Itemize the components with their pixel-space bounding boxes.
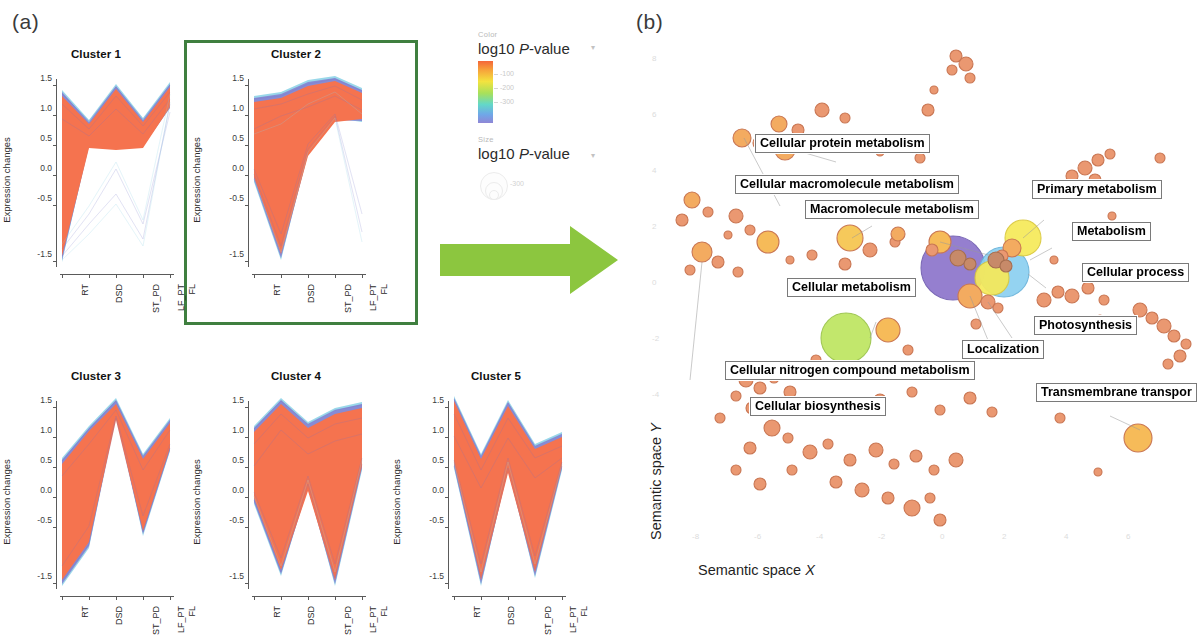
size-legend-tick: -300 xyxy=(510,180,524,187)
size-legend-title-tail: -value xyxy=(529,145,570,162)
color-legend-dropdown-caret[interactable]: ▾ xyxy=(591,43,595,52)
bubble-label-cellular-macromolecule-metabolism[interactable]: Cellular macromolecule metabolism xyxy=(735,175,959,194)
cluster-2-series xyxy=(248,74,368,274)
color-tick-0: -100 xyxy=(500,70,514,77)
cluster-4-ytick-0: 1.5 xyxy=(232,395,244,405)
cluster-3-ytick-5: -1.5 xyxy=(37,571,52,581)
cluster-1-series xyxy=(56,74,176,274)
cluster-4-ytick-5: -1.5 xyxy=(229,571,244,581)
size-legend-dropdown-caret[interactable]: ▾ xyxy=(591,151,595,160)
bubble-label-localization[interactable]: Localization xyxy=(962,340,1044,359)
cluster-5-ytick-1: 1.0 xyxy=(432,425,444,435)
cluster-2-ytick-3: 0.0 xyxy=(232,163,244,173)
cluster-5-ytick-0: 1.5 xyxy=(432,395,444,405)
scatter-x-axis-label-plain: Semantic space xyxy=(698,562,805,578)
cluster-2-xtick-4: FL xyxy=(379,284,389,295)
cluster-plot-5: Cluster 5 Expression changes 1.5 1.0 0.5… xyxy=(396,370,596,640)
cluster-3-xtick-2: ST_PD xyxy=(151,606,161,635)
cluster-1-xtick-1: DSD xyxy=(114,284,124,303)
bubble-label-metabolism[interactable]: Metabolism xyxy=(1072,222,1151,241)
cluster-2-ytick-1: 1.0 xyxy=(232,103,244,113)
cluster-5-ytick-5: -1.5 xyxy=(429,571,444,581)
cluster-1-xtick-3: LF_PT xyxy=(176,284,186,311)
cluster-4-xtick-0: RT xyxy=(272,606,282,618)
bubble-label-cellular-nitrogen-compound-metabolism[interactable]: Cellular nitrogen compound metabolism xyxy=(725,361,975,380)
cluster-5-ytick-4: -0.5 xyxy=(429,515,444,525)
cluster-1-plot-area: 1.5 1.0 0.5 0.0 -0.5 -1.5 xyxy=(56,74,176,286)
cluster-4-ytick-2: 0.5 xyxy=(232,455,244,465)
cluster-5-ytick-3: 0.0 xyxy=(432,485,444,495)
cluster-4-ytick-1: 1.0 xyxy=(232,425,244,435)
size-legend-title-italic: P xyxy=(519,145,529,162)
bubble-label-photosynthesis[interactable]: Photosynthesis xyxy=(1034,316,1137,335)
cluster-4-xtick-3: LF_PT xyxy=(368,606,378,633)
scatter-x-axis-label: Semantic space X xyxy=(698,562,815,578)
cluster-2-ytick-5: -1.5 xyxy=(229,249,244,259)
cluster-2-x-axis xyxy=(252,274,366,275)
cluster-5-xtick-3: LF_PT xyxy=(568,606,578,633)
cluster-plot-4: Cluster 4 Expression changes 1.5 1.0 0.5… xyxy=(196,370,396,640)
cluster-1-ytick-0: 1.5 xyxy=(40,73,52,83)
bubble-label-cellular-metabolism[interactable]: Cellular metabolism xyxy=(787,278,916,297)
cluster-4-series xyxy=(248,396,368,596)
size-legend-circle-small xyxy=(489,190,499,200)
cluster-3-plot-area: 1.5 1.0 0.5 0.0 -0.5 -1.5 RT DSD ST_ xyxy=(56,396,176,608)
color-legend-title-italic: P xyxy=(519,40,529,57)
revigo-legend: Color log10 P-value ▾ -100 -200 -300 Siz… xyxy=(478,30,608,162)
size-legend-title-plain: log10 xyxy=(478,145,519,162)
cluster-1-xtick-2: ST_PD xyxy=(151,284,161,313)
bubble-label-transmembrane-transport[interactable]: Transmembrane transpor xyxy=(1036,383,1197,402)
cluster-3-ytick-3: 0.0 xyxy=(40,485,52,495)
cluster-1-ylabel: Expression changes xyxy=(1,137,12,223)
cluster-3-x-axis xyxy=(60,596,174,597)
cluster-3-xtick-3: LF_PT xyxy=(176,606,186,633)
cluster-1-title: Cluster 1 xyxy=(10,48,182,60)
cluster-3-xtick-1: DSD xyxy=(114,606,124,625)
bubble-label-macromolecule-metabolism[interactable]: Macromolecule metabolism xyxy=(805,200,979,219)
transition-arrow-shape xyxy=(440,220,620,300)
cluster-5-plot-area: 1.5 1.0 0.5 0.0 -0.5 -1.5 xyxy=(448,396,568,608)
cluster-5-title: Cluster 5 xyxy=(396,370,596,382)
color-legend-title-tail: -value xyxy=(529,40,570,57)
cluster-1-x-axis xyxy=(60,274,174,275)
cluster-5-series xyxy=(448,396,568,596)
bubble-label-primary-metabolism[interactable]: Primary metabolism xyxy=(1032,180,1162,199)
cluster-2-xtick-3: LF_PT xyxy=(368,284,378,311)
cluster-3-ylabel: Expression changes xyxy=(1,459,12,545)
color-legend-title-plain: log10 xyxy=(478,40,519,57)
size-legend-caption: Size xyxy=(478,135,608,144)
scatter-x-axis-label-italic: X xyxy=(805,562,815,578)
cluster-5-xtick-0: RT xyxy=(472,606,482,618)
cluster-2-plot-area: 1.5 1.0 0.5 0.0 -0.5 -1.5 xyxy=(248,74,368,286)
cluster-3-series xyxy=(56,396,176,596)
cluster-2-xtick-1: DSD xyxy=(306,284,316,303)
cluster-1-xtick-0: RT xyxy=(80,284,90,296)
cluster-4-x-axis xyxy=(252,596,366,597)
panel-a-letter: (a) xyxy=(12,10,39,34)
cluster-5-xtick-1: DSD xyxy=(506,606,516,625)
cluster-2-ytick-2: 0.5 xyxy=(232,133,244,143)
bubble-label-cellular-biosynthesis[interactable]: Cellular biosynthesis xyxy=(750,397,886,416)
cluster-5-xtick-2: ST_PD xyxy=(543,606,553,635)
bubble-label-cellular-process[interactable]: Cellular process xyxy=(1082,263,1189,282)
cluster-1-ytick-5: -1.5 xyxy=(37,249,52,259)
size-legend-title: log10 P-value xyxy=(478,145,608,162)
color-legend-caption: Color xyxy=(478,30,608,39)
color-legend-title: log10 P-value xyxy=(478,40,608,57)
cluster-4-xtick-2: ST_PD xyxy=(343,606,353,635)
cluster-2-xtick-2: ST_PD xyxy=(343,284,353,313)
cluster-4-xtick-4: FL xyxy=(379,606,389,617)
cluster-2-ytick-4: -0.5 xyxy=(229,193,244,203)
cluster-2-ytick-0: 1.5 xyxy=(232,73,244,83)
cluster-3-ytick-1: 1.0 xyxy=(40,425,52,435)
cluster-1-ytick-1: 1.0 xyxy=(40,103,52,113)
cluster-5-x-axis xyxy=(452,596,566,597)
color-scale-bar xyxy=(478,61,493,123)
cluster-4-plot-area: 1.5 1.0 0.5 0.0 -0.5 -1.5 xyxy=(248,396,368,608)
cluster-4-ytick-3: 0.0 xyxy=(232,485,244,495)
cluster-3-xtick-0: RT xyxy=(80,606,90,618)
cluster-4-ylabel: Expression changes xyxy=(191,459,202,545)
cluster-2-title: Cluster 2 xyxy=(196,48,396,60)
bubble-label-cellular-protein-metabolism[interactable]: Cellular protein metabolism xyxy=(755,134,930,153)
cluster-3-ytick-2: 0.5 xyxy=(40,455,52,465)
